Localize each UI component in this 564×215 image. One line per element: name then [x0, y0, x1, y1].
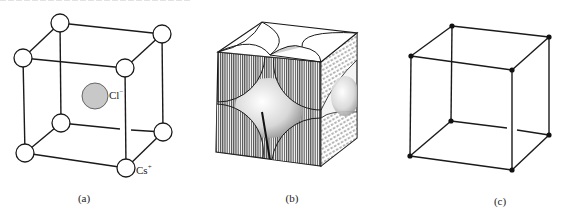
chloride-ion: [82, 83, 108, 109]
edge: [512, 37, 549, 70]
caption-b: (b): [286, 192, 299, 204]
cesium-symbol: Cs: [136, 164, 148, 176]
edge: [512, 135, 549, 170]
edge: [517, 130, 549, 135]
lattice-point: [546, 132, 551, 137]
chloride-symbol: Cl: [109, 89, 119, 101]
cesium-ion: [154, 123, 172, 141]
lattice-point: [449, 23, 454, 28]
cesium-ion: [51, 14, 69, 32]
edge: [410, 56, 411, 156]
lattice-point: [408, 53, 413, 58]
edge: [411, 56, 512, 70]
edge: [25, 153, 126, 168]
edge: [60, 23, 61, 123]
edge: [451, 26, 452, 121]
lattice-point: [407, 153, 412, 158]
cesium-ion: [16, 144, 34, 162]
chloride-charge: −: [119, 88, 123, 96]
edge: [452, 26, 549, 37]
edge: [23, 58, 25, 153]
panel-a-ball-and-stick: [14, 14, 172, 177]
cesium-charge: +: [148, 163, 152, 171]
diagram-canvas: [0, 0, 564, 215]
cesium-ion: [52, 114, 70, 132]
cesium-label: Cs+: [136, 164, 152, 176]
edge: [23, 58, 125, 68]
edge: [451, 121, 507, 128]
edge: [162, 34, 163, 132]
lattice-point: [509, 67, 514, 72]
edge: [411, 26, 452, 56]
chloride-label: Cl−: [109, 89, 123, 101]
caption-a: (a): [78, 192, 90, 204]
lattice-point: [546, 34, 551, 39]
caption-c: (c): [494, 195, 506, 207]
lattice-point: [448, 118, 453, 123]
panel-b-space-filling: [216, 22, 359, 166]
panel-c-simple-cubic-lattice: [407, 23, 551, 172]
edge: [125, 68, 126, 168]
edge: [410, 121, 451, 156]
edge: [60, 23, 162, 34]
cesium-ion: [117, 159, 135, 177]
lattice-point: [509, 167, 514, 172]
cscl-structure-figure: Cl− Cs+ (a) (b) (c): [0, 0, 564, 215]
edge: [410, 156, 512, 170]
cesium-ion: [153, 25, 171, 43]
cesium-ion: [116, 59, 134, 77]
cesium-ion: [14, 49, 32, 67]
